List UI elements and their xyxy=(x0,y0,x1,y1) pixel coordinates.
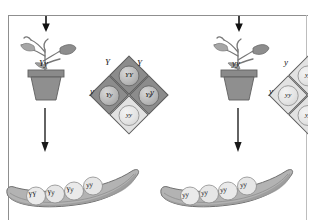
pea-genotype-label: YY xyxy=(27,189,37,199)
figure-canvas: Yy YY Yy Yy yy xyxy=(0,0,308,220)
pot-genotype-label-right: yy xyxy=(232,58,240,68)
punnett-allele-label-right-side: y xyxy=(269,86,273,96)
pea-genotype-label: yy xyxy=(239,180,247,190)
pea-genotype-label: Yy xyxy=(65,185,74,195)
parent-plant-left: Yy xyxy=(12,26,82,106)
parent-plant-right: yy xyxy=(205,26,275,106)
middle-down-arrow-icon xyxy=(233,108,243,152)
punnett-allele-label-left-top1: Y xyxy=(105,57,110,67)
punnett-allele-label-left-side: y xyxy=(90,86,94,96)
punnett-allele-label-right-top1: y xyxy=(284,57,288,67)
punnett-cell-genotype: yy xyxy=(305,111,308,118)
punnett-cell-genotype: Yy xyxy=(106,92,113,99)
pea-genotype-label: yy xyxy=(219,185,227,195)
punnett-cell-genotype: YY xyxy=(125,72,133,79)
punnett-cell-genotype: yy xyxy=(305,72,308,79)
pot-genotype-label-left: Yy xyxy=(39,58,48,68)
pea-genotype-label: yy xyxy=(181,190,189,200)
pea-pod-right: yy yy yy yy xyxy=(158,160,303,212)
allele-circle: yy xyxy=(278,85,299,106)
panel-left: Yy YY Yy Yy yy xyxy=(0,0,154,220)
punnett-cell-genotype: yy xyxy=(285,92,291,99)
panel-right: yy yy yy yy yy xyxy=(154,0,308,220)
allele-circle: yy xyxy=(298,65,309,86)
punnett-allele-label-left-top2: Y xyxy=(137,58,142,68)
allele-circle: Yy xyxy=(99,85,120,106)
allele-circle: yy xyxy=(119,104,140,125)
allele-circle: yy xyxy=(298,104,309,125)
pea-genotype-label: yy xyxy=(200,188,208,198)
middle-down-arrow-icon xyxy=(40,108,50,152)
pea-genotype-label: Yy xyxy=(46,188,55,198)
pea-pod-left: YY Yy Yy yy xyxy=(4,160,144,212)
punnett-cell-genotype: yy xyxy=(126,111,132,118)
pea-genotype-label: yy xyxy=(85,180,93,190)
